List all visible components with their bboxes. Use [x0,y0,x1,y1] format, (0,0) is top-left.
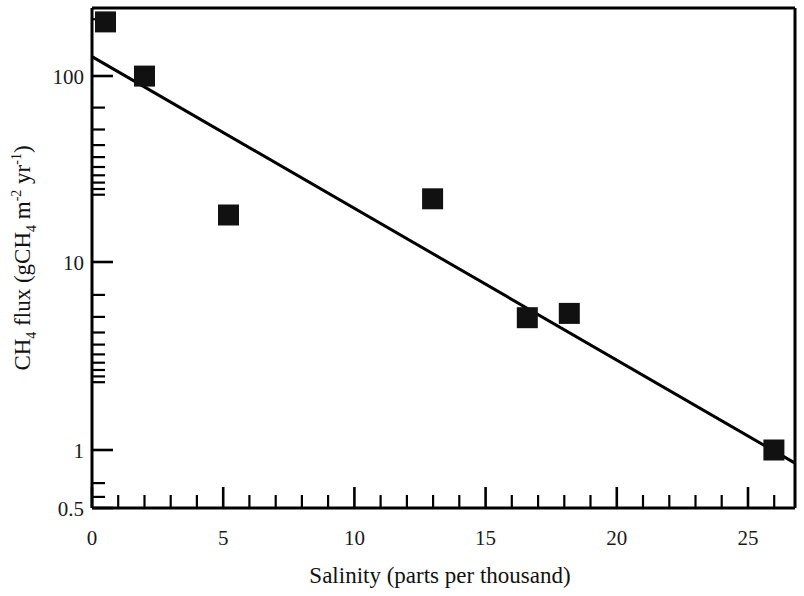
data-point [134,66,155,87]
y-title-unit-yr-sup: -1 [9,153,24,165]
y-tick-label: 1 [74,439,85,463]
data-point [95,11,116,32]
y-title-lead: CH [10,339,35,371]
x-tick-label: 0 [87,526,98,550]
x-axis-minor-ticks [118,495,774,508]
x-tick-label: 15 [475,526,496,550]
plot-frame [92,8,795,508]
y-title-close: ) [10,145,35,153]
svg-text:CH4 flux (gCH4 m-2 yr-1): CH4 flux (gCH4 m-2 yr-1) [9,145,39,370]
data-point [218,205,239,226]
y-tick-label: 10 [63,251,84,275]
data-point [559,303,580,324]
data-point [422,188,443,209]
y-title-unit-m: m [10,201,35,225]
x-tick-label: 5 [218,526,229,550]
y-tick-label: 100 [53,65,85,89]
y-axis-title: CH4 flux (gCH4 m-2 yr-1) [9,145,39,370]
data-point-markers [95,11,784,460]
chart-figure: 100 10 1 0.5 0 5 10 15 20 25 Salinity (p… [0,0,804,596]
x-tick-label: 25 [738,526,759,550]
x-tick-label: 20 [606,526,627,550]
x-axis-tick-labels: 0 5 10 15 20 25 [87,526,759,550]
y-tick-label: 0.5 [58,497,84,521]
y-axis-tick-labels: 100 10 1 0.5 [53,65,85,521]
y-axis-minor-ticks [92,19,105,497]
x-axis-title: Salinity (parts per thousand) [309,563,570,588]
x-axis-major-ticks [92,487,748,508]
data-point [763,440,784,461]
data-point [517,307,538,328]
y-title-unit-m-sup: -2 [9,190,24,202]
y-title-mid-sub: 4 [24,225,39,232]
y-axis-major-ticks [92,76,113,508]
regression-fit-line [92,57,795,464]
y-title-lead-sub: 4 [24,332,39,339]
x-tick-label: 10 [344,526,365,550]
y-title-mid: flux (gCH [10,232,35,332]
y-title-unit-yr: yr [10,164,35,189]
scatter-plot-svg: 100 10 1 0.5 0 5 10 15 20 25 Salinity (p… [0,0,804,596]
